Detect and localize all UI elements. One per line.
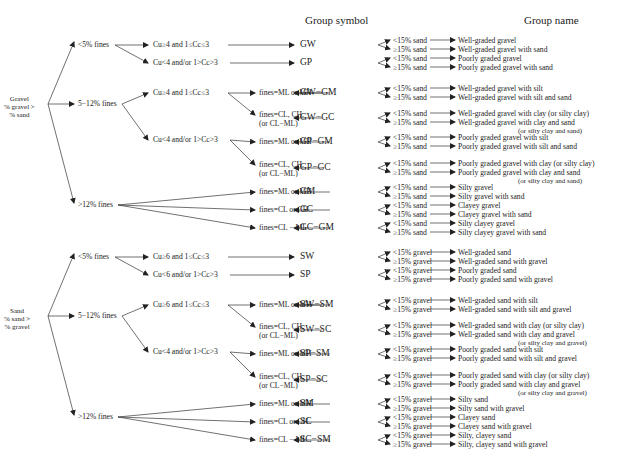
gravel-group-name: Poorly graded gravel <box>458 54 522 63</box>
sand-group-name: Silty sand <box>458 395 488 404</box>
sand-group-symbol: SP−SM <box>300 348 330 359</box>
sand-group-symbol: SW <box>300 251 314 262</box>
gravel-size-condition: ≥15% sand <box>393 210 427 219</box>
gravel-group-name: Poorly graded gravel with silt <box>458 133 548 142</box>
sand-group-name: Silty, clayey sand <box>458 431 511 440</box>
sand-group-name: Clayey sand <box>458 413 495 422</box>
gravel-group-symbol: GP <box>300 57 312 68</box>
sand-group-name: Silty sand with gravel <box>458 404 524 413</box>
sand-root-line: % gravel <box>4 323 30 331</box>
gravel-group-name: Silty clayey gravel with sand <box>458 228 546 237</box>
gravel-fines-lt5: <5% fines <box>78 40 109 49</box>
sand-group-symbol: SM <box>300 398 314 409</box>
gravel-root-line: Gravel <box>4 95 35 103</box>
gravel-group-name: Clayey gravel <box>458 201 500 210</box>
sand-group-name: Well-graded sand with silt <box>458 296 538 305</box>
gravel-group-symbol: GC−GM <box>300 222 334 233</box>
gravel-group-symbol: GW−GC <box>300 112 334 123</box>
gravel-size-condition: ≥15% sand <box>393 118 427 127</box>
gravel-fines-type-cl-ml-note: (or CL−ML) <box>259 119 298 128</box>
gravel-size-condition: <15% sand <box>393 183 427 192</box>
gravel-fines-gt12: >12% fines <box>78 200 113 209</box>
gravel-group-name: Poorly graded gravel with clay (or silty… <box>458 159 594 168</box>
sand-size-condition: ≥15% gravel <box>393 440 432 449</box>
gravel-size-condition: <15% sand <box>393 109 427 118</box>
gravel-group-name: Well-graded gravel <box>458 36 516 45</box>
sand-size-condition: <15% gravel <box>393 345 432 354</box>
gravel-size-condition: ≥15% sand <box>393 228 427 237</box>
sand-group-name: Poorly graded sand with clay and gravel <box>458 380 580 389</box>
gravel-group-symbol: GW <box>300 39 316 50</box>
gravel-group-symbol: GP−GM <box>300 136 333 147</box>
sand-group-name: Well-graded sand with gravel <box>458 257 547 266</box>
gravel-group-name: Well-graded gravel with clay and sand <box>458 118 575 127</box>
gravel-size-condition: ≥15% sand <box>393 45 427 54</box>
sand-size-condition: ≥15% gravel <box>393 354 432 363</box>
sand-grading-g2: Cu<6 and/or 1>Cc>3 <box>153 270 218 279</box>
sand-group-symbol: SP <box>300 269 311 280</box>
sand-group-symbol: SW−SC <box>300 324 331 335</box>
gravel-size-condition: <15% sand <box>393 133 427 142</box>
sand-group-name: Silty, clayey sand with gravel <box>458 440 548 449</box>
sand-fines-type-cl-ch: fines=CL, CH, <box>259 322 304 331</box>
sand-size-condition: <15% gravel <box>393 321 432 330</box>
gravel-size-condition: <15% sand <box>393 219 427 228</box>
sand-group-symbol: SW−SM <box>300 299 333 310</box>
sand-size-condition: ≥15% gravel <box>393 380 432 389</box>
sand-grading-g4: Cu<4 and/or 1>Cc>3 <box>153 347 218 356</box>
gravel-group-symbol: GW−GM <box>300 87 337 98</box>
sand-size-condition: ≥15% gravel <box>393 305 432 314</box>
gravel-fines-type-cl-ch: fines=CL, CH, <box>259 160 304 169</box>
sand-root-line: % sand > <box>4 315 30 323</box>
gravel-fines-type-cl-ch: fines=CL, CH, <box>259 110 304 119</box>
sand-size-condition: ≥15% gravel <box>393 422 432 431</box>
gravel-root-line: % gravel > <box>4 103 35 111</box>
gravel-fines-5to12: 5−12% fines <box>78 99 117 108</box>
gravel-grading-g3: Cu≥4 and 1≤Cc≤3 <box>153 88 209 97</box>
gravel-group-name: Poorly graded gravel with sand <box>458 63 553 72</box>
sand-fines-5to12: 5−12% fines <box>78 311 117 320</box>
sand-size-condition: <15% gravel <box>393 371 432 380</box>
group-symbol-header: Group symbol <box>305 14 368 27</box>
sand-group-name: Poorly graded sand with clay (or silty c… <box>458 371 589 380</box>
sand-size-condition: <15% gravel <box>393 248 432 257</box>
gravel-group-name: Silty gravel <box>458 183 493 192</box>
gravel-group-name: Poorly graded gravel with clay and sand <box>458 168 580 177</box>
gravel-group-name: Clayey gravel with sand <box>458 210 532 219</box>
sand-size-condition: <15% gravel <box>393 395 432 404</box>
gravel-group-name: Silty clayey gravel <box>458 219 515 228</box>
gravel-group-name: Silty gravel with sand <box>458 192 524 201</box>
gravel-group-name: Well-graded gravel with silt and sand <box>458 93 571 102</box>
sand-group-symbol: SC−SM <box>300 434 331 445</box>
sand-grading-g3: Cu≥6 and 1≤Cc≤3 <box>153 300 209 309</box>
sand-group-name: Well-graded sand with silt and gravel <box>458 305 571 314</box>
sand-group-name: Poorly graded sand with gravel <box>458 275 553 284</box>
gravel-size-condition: ≥15% sand <box>393 63 427 72</box>
sand-group-symbol: SP−SC <box>300 374 328 385</box>
gravel-grading-g4: Cu<4 and/or 1>Cc>3 <box>153 135 218 144</box>
gravel-size-condition: ≥15% sand <box>393 168 427 177</box>
sand-size-condition: ≥15% gravel <box>393 330 432 339</box>
sand-root-line: Sand <box>4 307 30 315</box>
sand-fines-type-cl-ch: fines=CL, CH, <box>259 372 304 381</box>
sand-group-name: Well-graded sand with clay and gravel <box>458 330 575 339</box>
gravel-grading-g2: Cu<4 and/or 1>Cc>3 <box>153 58 218 67</box>
gravel-group-name-note: (or silty clay and sand) <box>518 177 582 186</box>
gravel-group-name: Well-graded gravel with clay (or silty c… <box>458 109 589 118</box>
gravel-size-condition: ≥15% sand <box>393 93 427 102</box>
sand-group-symbol: SC <box>300 416 312 427</box>
sand-size-condition: ≥15% gravel <box>393 275 432 284</box>
sand-fines-lt5: <5% fines <box>78 252 109 261</box>
gravel-group-symbol: GP−GC <box>300 162 331 173</box>
gravel-size-condition: ≥15% sand <box>393 142 427 151</box>
gravel-fines-type-cl-ml-note: (or CL−ML) <box>259 169 298 178</box>
gravel-root-label: Gravel% gravel >% sand <box>4 95 35 119</box>
group-name-header: Group name <box>524 14 579 27</box>
gravel-size-condition: <15% sand <box>393 84 427 93</box>
sand-grading-g1: Cu≥6 and 1≤Cc≤3 <box>153 252 209 261</box>
sand-size-condition: <15% gravel <box>393 266 432 275</box>
sand-size-condition: <15% gravel <box>393 296 432 305</box>
gravel-size-condition: <15% sand <box>393 36 427 45</box>
sand-group-name: Clayey sand with gravel <box>458 422 532 431</box>
sand-size-condition: ≥15% gravel <box>393 404 432 413</box>
